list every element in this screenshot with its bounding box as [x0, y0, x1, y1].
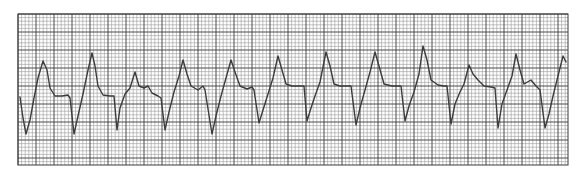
- ecg-rhythm-strip: [0, 0, 587, 173]
